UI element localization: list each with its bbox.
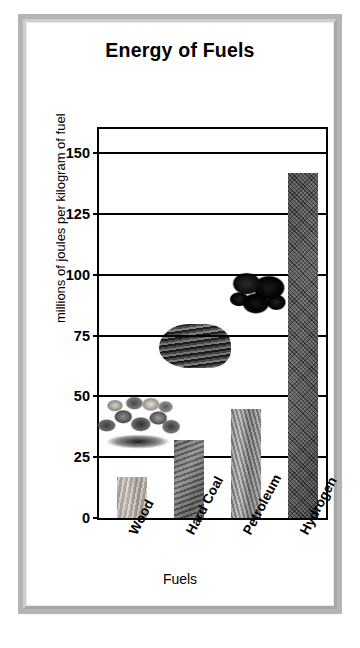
- poster-frame: Energy of Fuels millions of joules per k…: [23, 19, 337, 609]
- y-tick-label-25: 25: [74, 449, 90, 465]
- y-tick-mark-75: [93, 335, 99, 337]
- y-tick-label-125: 125: [66, 206, 90, 222]
- page-title: Energy of Fuels: [27, 39, 333, 62]
- y-tick-mark-25: [93, 456, 99, 458]
- y-tick-label-75: 75: [74, 328, 90, 344]
- x-axis-title: Fuels: [27, 571, 333, 587]
- y-tick-label-100: 100: [66, 267, 90, 283]
- y-tick-mark-50: [93, 395, 99, 397]
- bar-hydrogen: [288, 173, 318, 518]
- y-tick-mark-0: [93, 517, 99, 519]
- coal-rock-photo: [159, 324, 231, 368]
- y-tick-label-150: 150: [66, 145, 90, 161]
- gridline-150: [99, 152, 326, 154]
- chart-page: Energy of Fuels millions of joules per k…: [0, 0, 360, 648]
- y-tick-label-50: 50: [74, 388, 90, 404]
- y-tick-mark-125: [93, 213, 99, 215]
- y-tick-label-0: 0: [82, 510, 90, 526]
- plot-area: 0255075100125150: [97, 127, 328, 520]
- y-tick-mark-150: [93, 152, 99, 154]
- poster-inner-panel: Energy of Fuels millions of joules per k…: [26, 22, 334, 606]
- y-tick-mark-100: [93, 274, 99, 276]
